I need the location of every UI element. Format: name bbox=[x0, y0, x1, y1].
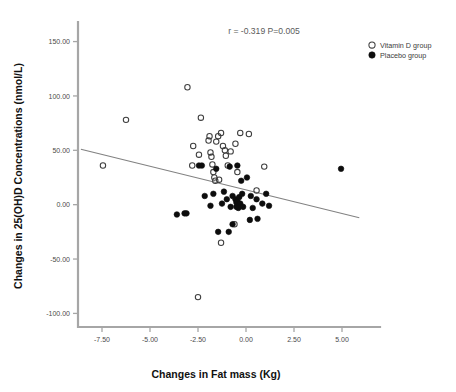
x-tick-label: -7.50 bbox=[94, 336, 110, 343]
data-point-placebo bbox=[224, 196, 230, 202]
data-point-placebo bbox=[235, 163, 241, 169]
data-point-placebo bbox=[219, 201, 225, 207]
data-point-placebo bbox=[338, 166, 344, 172]
plot-canvas: -7.50-5.00-2.500.002.505.00 150.00100.00… bbox=[0, 0, 456, 392]
data-point-placebo bbox=[238, 178, 244, 184]
data-point-placebo bbox=[199, 163, 205, 169]
data-point-placebo bbox=[263, 191, 269, 197]
correlation-annotation: r = -0.319 P=0.005 bbox=[228, 26, 300, 36]
y-tick-label: 100.00 bbox=[49, 93, 71, 100]
x-tick-label: 5.00 bbox=[335, 336, 349, 343]
x-axis-title: Changes in Fat mass (Kg) bbox=[152, 368, 281, 380]
data-point-placebo bbox=[221, 189, 227, 195]
data-point-placebo bbox=[230, 221, 236, 227]
data-point-placebo bbox=[244, 175, 250, 181]
legend-label: Vitamin D group bbox=[380, 41, 431, 50]
y-tick-label: 50.00 bbox=[52, 147, 70, 154]
data-point-placebo bbox=[184, 211, 190, 217]
x-tick-label: 2.50 bbox=[287, 336, 301, 343]
x-tick-label: -2.50 bbox=[190, 336, 206, 343]
data-point-placebo bbox=[250, 205, 256, 211]
data-point-placebo bbox=[260, 201, 266, 207]
x-tick-label: 0.00 bbox=[239, 336, 253, 343]
legend-marker-placebo bbox=[369, 52, 375, 58]
data-point-placebo bbox=[211, 191, 217, 197]
y-tick-label: -50.00 bbox=[50, 256, 70, 263]
y-tick-label: 0.00 bbox=[56, 201, 70, 208]
scatter-chart: -7.50-5.00-2.500.002.505.00 150.00100.00… bbox=[0, 0, 456, 392]
data-point-placebo bbox=[208, 203, 214, 209]
data-point-placebo bbox=[215, 229, 221, 235]
x-tick-label: -5.00 bbox=[142, 336, 158, 343]
y-tick-label: 150.00 bbox=[49, 38, 71, 45]
y-tick-label: -100.00 bbox=[46, 310, 70, 317]
data-point-placebo bbox=[228, 204, 234, 210]
data-point-placebo bbox=[240, 204, 246, 210]
data-point-placebo bbox=[226, 229, 232, 235]
legend-label: Placebo group bbox=[380, 51, 426, 60]
data-point-placebo bbox=[248, 193, 254, 199]
data-point-placebo bbox=[227, 164, 233, 170]
data-point-placebo bbox=[202, 193, 208, 199]
data-point-placebo bbox=[239, 191, 245, 197]
data-point-placebo bbox=[213, 166, 219, 172]
data-point-placebo bbox=[247, 217, 253, 223]
data-point-placebo bbox=[255, 216, 261, 222]
data-point-placebo bbox=[266, 203, 272, 209]
y-axis-title: Changes in 25(OH)D Concentrations (nmol/… bbox=[12, 63, 24, 289]
data-point-placebo bbox=[254, 196, 260, 202]
data-point-placebo bbox=[174, 212, 180, 218]
